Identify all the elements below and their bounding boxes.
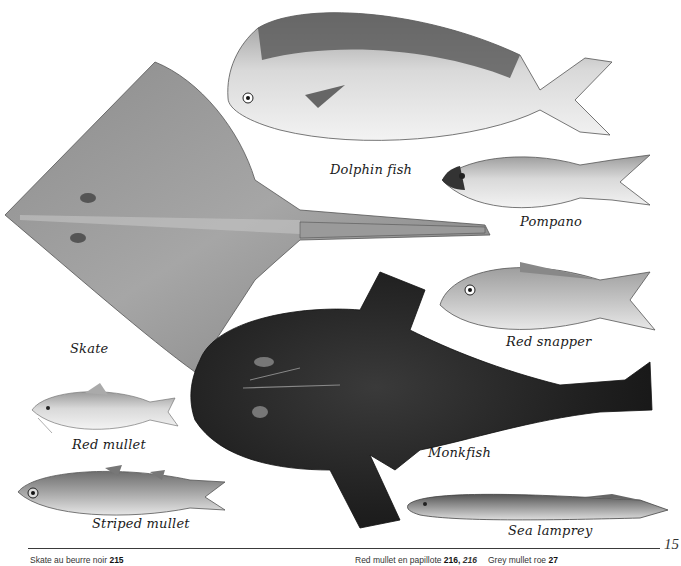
- caption-skate: Skate: [70, 341, 108, 356]
- footer-rule: [28, 548, 660, 549]
- ref-text: Grey mullet roe: [488, 555, 546, 565]
- page-number: 15: [664, 536, 679, 553]
- fish-illustration-plate: [0, 0, 681, 545]
- red-mullet-drawing: [32, 383, 178, 433]
- footer-ref-skate: Skate au beurre noir 215: [30, 555, 124, 565]
- ref-page: 216,: [444, 555, 461, 565]
- pompano-drawing: [442, 155, 650, 208]
- caption-monkfish: Monkfish: [428, 445, 491, 460]
- caption-striped-mullet: Striped mullet: [92, 516, 190, 531]
- sea-lamprey-drawing: [408, 494, 669, 520]
- ref-text: Skate au beurre noir: [30, 555, 107, 565]
- footer-ref-grey-mullet: Grey mullet roe 27: [488, 555, 558, 565]
- ref-page: 27: [548, 555, 557, 565]
- footer-ref-red-mullet: Red mullet en papillote 216, 216: [355, 555, 477, 565]
- dolphin-fish-drawing: [228, 13, 612, 141]
- caption-sea-lamprey: Sea lamprey: [508, 523, 593, 538]
- ref-page-italic: 216: [463, 555, 477, 565]
- caption-red-snapper: Red snapper: [506, 334, 591, 349]
- caption-pompano: Pompano: [520, 214, 582, 229]
- striped-mullet-drawing: [18, 465, 225, 515]
- caption-red-mullet: Red mullet: [72, 437, 146, 452]
- ref-page: 215: [109, 555, 123, 565]
- caption-dolphin-fish: Dolphin fish: [330, 162, 412, 177]
- red-snapper-drawing: [440, 262, 655, 330]
- ref-text: Red mullet en papillote: [355, 555, 441, 565]
